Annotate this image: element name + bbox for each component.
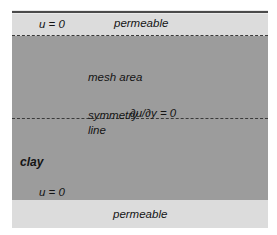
label-pore-pressure-top: u = 0 [39,19,65,31]
top-mesh-boundary-dashed-line [12,35,268,36]
label-line-word: line [88,125,106,137]
diagram-plate: u = 0 permeable mesh area symmetry ∂u/∂y… [12,10,268,228]
figure-root: u = 0 permeable mesh area symmetry ∂u/∂y… [0,0,277,235]
label-permeable-bottom: permeable [113,209,167,221]
label-flux-condition: ∂u/∂y = 0 [130,108,176,120]
label-clay-material: clay [20,156,43,168]
label-permeable-top: permeable [114,18,168,30]
label-pore-pressure-bottom: u = 0 [39,187,65,199]
top-border-rule [12,11,268,13]
label-mesh-area: mesh area [88,72,142,84]
